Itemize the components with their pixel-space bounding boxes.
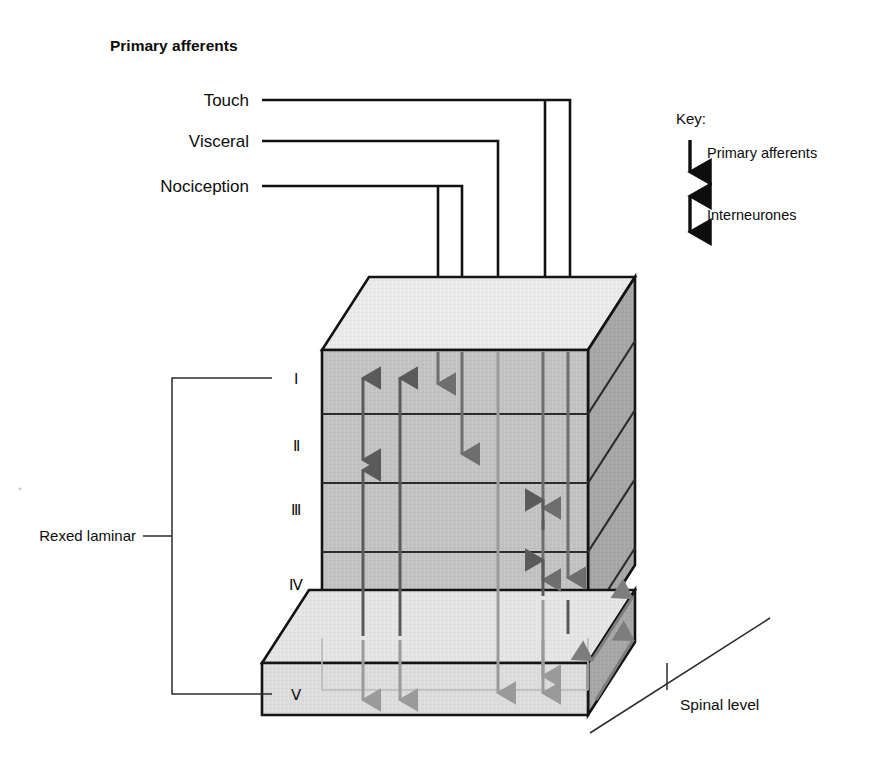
spinal-laminae-diagram: Primary afferents Touch Visceral Nocicep… bbox=[0, 0, 878, 764]
lamina-numeral-5: Ⅴ bbox=[291, 687, 302, 703]
afferent-label-nociception: Nociception bbox=[160, 177, 249, 196]
figure-canvas: Primary afferents Touch Visceral Nocicep… bbox=[0, 0, 878, 764]
lamina-numeral-4: Ⅳ bbox=[289, 577, 303, 593]
spinal-level-label: Spinal level bbox=[680, 696, 759, 713]
lamina-numeral-5-text: Ⅴ bbox=[291, 687, 302, 703]
lamina-numeral-2-text: Ⅱ bbox=[293, 438, 300, 454]
afferent-label-visceral: Visceral bbox=[189, 132, 249, 151]
lamina-numeral-2: Ⅱ bbox=[293, 438, 300, 454]
slab-front-face bbox=[262, 663, 588, 715]
key-heading: Key: bbox=[676, 110, 706, 127]
lamina-numeral-3: Ⅲ bbox=[291, 502, 301, 518]
slab-top-face bbox=[262, 590, 635, 663]
lamina-numeral-1: Ⅰ bbox=[294, 371, 298, 387]
afferent-label-touch: Touch bbox=[204, 91, 249, 110]
lamina-numeral-4-text: Ⅳ bbox=[289, 577, 303, 593]
lamina-numeral-3-text: Ⅲ bbox=[291, 502, 301, 518]
lamina-numeral-1-text: Ⅰ bbox=[294, 371, 298, 387]
rexed-laminar-bracket bbox=[172, 378, 196, 694]
key-label-interneurones: Interneurones bbox=[707, 207, 796, 223]
key-label-primary-afferents: Primary afferents bbox=[707, 145, 817, 161]
rexed-laminar-label: Rexed laminar bbox=[39, 527, 136, 544]
scan-artifact bbox=[19, 488, 22, 491]
page-title: Primary afferents bbox=[110, 37, 238, 54]
block-top-face bbox=[322, 277, 635, 350]
